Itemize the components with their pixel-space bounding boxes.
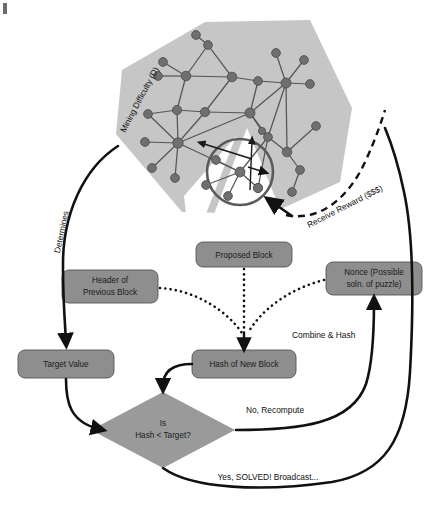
- network-node: [258, 127, 265, 134]
- network-node: [288, 188, 297, 197]
- arc-target-to-decision: [66, 379, 99, 429]
- label-combine-and-hash: Combine & Hash: [292, 330, 356, 340]
- determines-arc: [63, 146, 118, 341]
- node-proposed-block[interactable]: Proposed Block: [196, 242, 292, 267]
- network-node: [144, 110, 153, 119]
- magnified-node: [253, 183, 262, 192]
- magnified-node: [202, 181, 211, 190]
- network-node: [171, 174, 180, 183]
- nonce-label-line1: Nonce (Possible: [344, 268, 404, 277]
- network-node: [181, 71, 191, 81]
- network-node: [282, 147, 292, 157]
- network-node: [192, 31, 201, 40]
- magnified-node: [212, 156, 221, 165]
- network-node: [312, 122, 321, 131]
- network-node: [173, 138, 183, 148]
- target-value-label: Target Value: [43, 360, 89, 369]
- label-no-recompute: No, Recompute: [246, 405, 305, 415]
- network-node: [204, 41, 213, 50]
- page-corner-artifact: [3, 3, 7, 14]
- header-previous-block-label-line1: Header of: [92, 276, 129, 285]
- nonce-label-line2: soln. of puzzle): [346, 280, 401, 289]
- node-decision-hash-vs-target[interactable]: Is Hash < Target?: [91, 392, 235, 468]
- network-node: [245, 108, 255, 118]
- label-yes-solved: Yes, SOLVED! Broadcast...: [217, 472, 318, 482]
- nonce-shape[interactable]: [326, 262, 422, 295]
- magnified-node: [224, 192, 233, 201]
- network-node: [172, 105, 181, 114]
- network-node: [254, 77, 263, 86]
- decision-label-line2: Hash < Target?: [135, 431, 191, 440]
- network-node: [264, 133, 273, 142]
- label-determines: Determines: [52, 210, 71, 254]
- hash-of-new-block-label: Hash of New Block: [209, 360, 279, 369]
- decision-label-line1: Is: [160, 419, 166, 428]
- network-node: [148, 164, 157, 173]
- decision-diamond-shape[interactable]: [91, 392, 235, 468]
- dotted-arc-from-header: [160, 288, 242, 333]
- dotted-arc-from-nonce: [248, 280, 324, 333]
- proposed-block-label: Proposed Block: [215, 251, 273, 260]
- mining-process-diagram: Mining Difficulty (D) Proposed Block Hea…: [0, 0, 441, 508]
- header-previous-block-shape[interactable]: [62, 270, 158, 303]
- network-node: [296, 166, 305, 175]
- diagram-canvas: Mining Difficulty (D) Proposed Block Hea…: [0, 0, 441, 508]
- network-node: [200, 107, 209, 116]
- flow-determines: Determines: [52, 146, 118, 341]
- network-node: [306, 80, 315, 89]
- node-header-previous-block[interactable]: Header of Previous Block: [62, 270, 158, 303]
- network-node: [272, 49, 281, 58]
- header-previous-block-label-line2: Previous Block: [83, 288, 138, 297]
- arc-hash-to-decision: [163, 364, 192, 386]
- network-node: [141, 138, 150, 147]
- node-nonce[interactable]: Nonce (Possible soln. of puzzle): [326, 262, 422, 295]
- node-hash-of-new-block[interactable]: Hash of New Block: [192, 350, 296, 378]
- node-target-value[interactable]: Target Value: [18, 350, 114, 378]
- magnified-node-center: [235, 167, 245, 177]
- network-node: [281, 78, 291, 88]
- network-node: [227, 72, 237, 82]
- network-node: [159, 58, 168, 67]
- network-node: [300, 56, 309, 65]
